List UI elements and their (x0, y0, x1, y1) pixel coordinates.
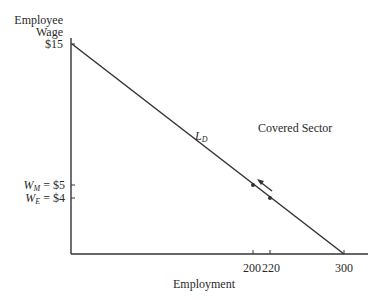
point-wm (251, 183, 255, 187)
point-we (268, 196, 272, 200)
tick-label-220: 220 (262, 262, 280, 275)
x-axis-label: Employment (173, 278, 235, 291)
tick-label-15: $15 (8, 38, 63, 51)
tick-label-300: 300 (335, 262, 353, 275)
curve-label: LD (195, 130, 207, 146)
region-label: Covered Sector (258, 122, 332, 135)
labor-demand-curve (72, 44, 344, 254)
tick-label-we: WE = $4 (8, 192, 65, 208)
tick-label-200: 200 (243, 262, 261, 275)
